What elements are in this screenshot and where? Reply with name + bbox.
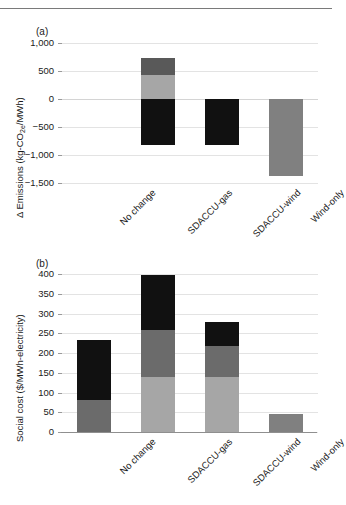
bar-segment — [205, 346, 239, 378]
x-axis-label: No change — [117, 187, 157, 227]
bar-segment — [205, 99, 239, 145]
y-tick-label: 200 — [4, 347, 54, 358]
y-tick-mark — [58, 314, 62, 315]
bar-segment — [269, 414, 303, 432]
bar-segment — [205, 377, 239, 432]
bar — [141, 274, 175, 432]
y-tick-mark — [58, 412, 62, 413]
bar — [77, 274, 111, 432]
bar-segment — [141, 275, 175, 331]
y-tick-label: −1,500 — [4, 177, 54, 188]
x-axis-line — [61, 432, 317, 433]
y-tick-label: 0 — [4, 426, 54, 437]
bar-segment — [205, 322, 239, 346]
x-axis-label: Wind-only — [308, 436, 346, 474]
y-axis-title-pre: Δ Emissions (kg-CO — [14, 133, 25, 218]
y-tick-mark — [58, 99, 62, 100]
bar — [77, 43, 111, 183]
y-tick-mark — [58, 294, 62, 295]
y-tick-mark — [58, 393, 62, 394]
y-tick-mark — [58, 333, 62, 334]
horizontal-rule — [0, 8, 332, 9]
x-axis-label: Wind-only — [308, 187, 346, 225]
bar-segment — [141, 75, 175, 99]
cropped-caption-strip — [0, 0, 332, 7]
emissions-chart-panel: (a) Δ Emissions (kg-CO2e/MWh) 1,0005000−… — [0, 18, 332, 250]
y-tick-label: 150 — [4, 367, 54, 378]
y-tick-label: 500 — [4, 65, 54, 76]
y-tick-label: 350 — [4, 288, 54, 299]
x-axis-label: SDACCU-wind — [250, 187, 302, 239]
y-tick-label: 1,000 — [4, 37, 54, 48]
y-tick-label: 0 — [4, 93, 54, 104]
y-tick-label: 50 — [4, 406, 54, 417]
bar-segment — [77, 340, 111, 400]
y-tick-mark — [58, 71, 62, 72]
y-tick-label: 300 — [4, 308, 54, 319]
bar — [269, 274, 303, 432]
x-axis-label: SDACCU-wind — [250, 436, 302, 488]
y-tick-mark — [58, 274, 62, 275]
y-tick-label: 250 — [4, 327, 54, 338]
bar — [269, 43, 303, 183]
bar — [205, 274, 239, 432]
bar-segment — [141, 330, 175, 377]
y-tick-mark — [58, 127, 62, 128]
y-tick-label: −1,000 — [4, 149, 54, 160]
x-axis-label: SDACCU-gas — [185, 436, 234, 485]
bar-segment — [141, 377, 175, 432]
social-cost-chart-panel: (b) Social cost ($/MWh-electricity) 0501… — [0, 252, 332, 505]
bar — [205, 43, 239, 183]
x-axis-label: No change — [117, 436, 157, 476]
bar-segment — [269, 99, 303, 176]
y-tick-mark — [58, 373, 62, 374]
panel-b-plot-area: 050100150200250300350400 — [62, 274, 318, 432]
panel-a-label: (a) — [36, 26, 48, 37]
bar-segment — [141, 58, 175, 75]
bar-segment — [141, 99, 175, 145]
y-tick-label: −500 — [4, 121, 54, 132]
x-axis-label: SDACCU-gas — [185, 187, 234, 236]
gridline — [62, 183, 318, 184]
bar — [141, 43, 175, 183]
bar-segment — [77, 400, 111, 432]
y-tick-mark — [58, 43, 62, 44]
panel-a-plot-area: 1,0005000−500−1,000−1,500 — [62, 43, 318, 183]
y-tick-label: 100 — [4, 387, 54, 398]
y-tick-label: 400 — [4, 268, 54, 279]
y-tick-mark — [58, 353, 62, 354]
y-tick-mark — [58, 183, 62, 184]
y-tick-mark — [58, 155, 62, 156]
